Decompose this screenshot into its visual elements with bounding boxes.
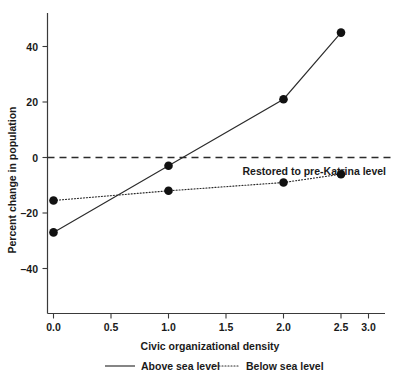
legend-label-above-sea-level: Above sea level — [141, 360, 220, 372]
x-tick-label: 3.0 — [361, 321, 376, 333]
x-axis-ticks — [54, 314, 369, 319]
y-axis-title: Percent change in population — [6, 106, 18, 253]
data-point — [164, 187, 173, 196]
x-tick-label: 1.5 — [219, 321, 234, 333]
series-below-sea-level-line — [54, 174, 342, 200]
data-point — [337, 28, 346, 37]
x-tick-label: 2.0 — [276, 321, 291, 333]
y-tick-label: 20 — [26, 96, 38, 108]
x-axis-title: Civic organizational density — [141, 340, 280, 352]
series-above-sea-level — [49, 28, 345, 236]
series-above-sea-level-line — [54, 33, 342, 233]
x-tick-label: 0.5 — [104, 321, 119, 333]
chart-figure: 40 20 0 –20 –40 Percent change in popula… — [0, 0, 394, 377]
y-tick-label: 0 — [32, 152, 38, 164]
data-point — [279, 178, 288, 187]
y-tick-label: –20 — [20, 207, 38, 219]
y-tick-label: –40 — [20, 263, 38, 275]
data-point — [49, 196, 58, 205]
y-axis-ticks — [43, 47, 48, 269]
line-chart-canvas: 40 20 0 –20 –40 Percent change in popula… — [0, 0, 394, 377]
data-point — [164, 162, 173, 171]
reference-line-annotation: Restored to pre-Katrina level — [242, 165, 386, 177]
legend-label-below-sea-level: Below sea level — [246, 360, 324, 372]
data-point — [337, 170, 346, 179]
x-tick-label: 2.5 — [334, 321, 349, 333]
x-axis-tick-labels: 0.0 0.5 1.0 1.5 2.0 2.5 3.0 — [46, 321, 376, 333]
x-tick-label: 1.0 — [161, 321, 176, 333]
y-tick-label: 40 — [26, 41, 38, 53]
x-tick-label: 0.0 — [46, 321, 61, 333]
data-point — [279, 95, 288, 104]
y-axis-tick-labels: 40 20 0 –20 –40 — [20, 41, 38, 275]
chart-legend: Above sea level Below sea level — [105, 360, 324, 372]
data-point — [49, 228, 58, 237]
